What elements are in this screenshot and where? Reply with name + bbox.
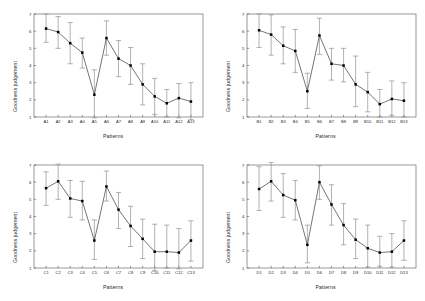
data-point-D6 xyxy=(318,180,321,182)
x-tick-label-A3: A3 xyxy=(68,119,74,124)
plot-area-a: 1234567A1A2A3A4A5A6A7A8A9A10A11A12A13 xyxy=(0,0,213,151)
data-point-D13 xyxy=(402,239,405,242)
y-tick-label-c-7: 7 xyxy=(29,162,32,167)
x-tick-label-C7: C7 xyxy=(116,270,122,275)
chart-panel-c: Goodness judgement 1234567C1C2C3C4C5C6C7… xyxy=(0,151,213,301)
y-tick-label-a-5: 5 xyxy=(29,46,32,51)
x-tick-label-D9: D9 xyxy=(353,270,359,275)
x-axis-title-a: Patterns xyxy=(103,133,123,139)
data-point-D7 xyxy=(330,203,333,206)
x-tick-label-D12: D12 xyxy=(388,270,396,275)
y-tick-label-b-1: 1 xyxy=(242,115,245,120)
x-tick-label-A11: A11 xyxy=(163,119,171,124)
x-tick-label-D1: D1 xyxy=(256,270,262,275)
error-bar-C11 xyxy=(164,225,169,268)
data-point-C8 xyxy=(129,224,132,227)
y-tick-label-d-5: 5 xyxy=(242,196,245,201)
y-tick-label-d-1: 1 xyxy=(242,265,245,270)
y-tick-label-a-4: 4 xyxy=(29,63,32,68)
x-tick-label-A1: A1 xyxy=(44,119,50,124)
x-axis-title-b: Patterns xyxy=(316,133,336,139)
data-point-D3 xyxy=(281,193,284,196)
data-point-A2 xyxy=(57,31,60,34)
data-point-A9 xyxy=(141,83,144,86)
data-point-D2 xyxy=(269,180,272,183)
error-bar-C10 xyxy=(152,224,157,270)
x-tick-label-D6: D6 xyxy=(316,270,322,275)
x-tick-label-C1: C1 xyxy=(43,270,49,275)
data-point-B4 xyxy=(294,50,297,53)
x-tick-label-D8: D8 xyxy=(340,270,346,275)
x-tick-label-D5: D5 xyxy=(304,270,310,275)
y-tick-label-a-6: 6 xyxy=(29,29,32,34)
data-point-D11 xyxy=(378,251,381,254)
x-tick-label-C3: C3 xyxy=(68,270,74,275)
data-point-A10 xyxy=(153,95,156,98)
x-tick-label-C13: C13 xyxy=(187,270,195,275)
data-point-D5 xyxy=(306,243,309,246)
data-point-B9 xyxy=(354,83,357,86)
x-tick-label-A8: A8 xyxy=(128,119,134,124)
y-tick-label-d-6: 6 xyxy=(242,179,245,184)
x-tick-label-B5: B5 xyxy=(304,119,310,124)
data-point-C13 xyxy=(190,239,193,242)
data-point-B13 xyxy=(402,99,405,102)
x-tick-label-C10: C10 xyxy=(151,270,159,275)
x-tick-label-B10: B10 xyxy=(364,119,372,124)
x-tick-label-D4: D4 xyxy=(292,270,298,275)
plot-area-b: 1234567B1B2B3B4B5B6B7B8B9B10B11B12B13 xyxy=(213,0,425,151)
x-tick-label-C2: C2 xyxy=(56,270,62,275)
data-point-C7 xyxy=(117,208,120,211)
data-point-A7 xyxy=(117,57,120,60)
x-tick-label-D13: D13 xyxy=(400,270,408,275)
plot-area-d: 1234567D1D2D3D4D5D6D7D8D9D10D11D12D13 xyxy=(213,151,425,301)
x-tick-label-D11: D11 xyxy=(376,270,384,275)
chart-panel-a: Goodness judgement 1234567A1A2A3A4A5A6A7… xyxy=(0,0,213,151)
x-tick-label-C9: C9 xyxy=(140,270,146,275)
y-tick-label-a-2: 2 xyxy=(29,97,32,102)
chart-panel-d: Goodness judgement 1234567D1D2D3D4D5D6D7… xyxy=(213,151,425,301)
y-tick-label-c-2: 2 xyxy=(29,248,32,253)
x-axis-title-d: Patterns xyxy=(316,284,336,290)
error-bar-A12 xyxy=(176,84,181,118)
data-point-C3 xyxy=(69,197,72,200)
error-bar-D10 xyxy=(365,225,370,267)
data-point-A11 xyxy=(166,102,169,105)
error-bar-C12 xyxy=(176,228,181,268)
y-tick-label-b-4: 4 xyxy=(242,63,245,68)
data-point-C11 xyxy=(166,250,169,253)
y-tick-label-d-7: 7 xyxy=(242,162,245,167)
data-point-B8 xyxy=(342,64,345,67)
figure-panel-grid: Goodness judgement 1234567A1A2A3A4A5A6A7… xyxy=(0,0,425,301)
data-point-B3 xyxy=(281,45,284,48)
y-tick-label-c-3: 3 xyxy=(29,231,32,236)
x-tick-label-C5: C5 xyxy=(92,270,98,275)
y-tick-label-a-7: 7 xyxy=(29,12,32,17)
x-tick-label-A10: A10 xyxy=(151,119,159,124)
data-point-B1 xyxy=(257,29,260,32)
x-tick-label-C11: C11 xyxy=(163,270,171,275)
data-point-A8 xyxy=(129,64,132,67)
data-point-C5 xyxy=(93,239,96,242)
y-tick-label-d-4: 4 xyxy=(242,214,245,219)
x-tick-label-B8: B8 xyxy=(341,119,347,124)
y-tick-label-b-3: 3 xyxy=(242,80,245,85)
x-tick-label-A6: A6 xyxy=(104,119,110,124)
x-tick-label-D3: D3 xyxy=(280,270,286,275)
x-tick-label-C8: C8 xyxy=(128,270,134,275)
y-tick-label-d-2: 2 xyxy=(242,248,245,253)
data-point-B12 xyxy=(390,98,393,101)
x-tick-label-A2: A2 xyxy=(56,119,62,124)
data-point-A4 xyxy=(81,51,84,54)
data-point-B5 xyxy=(306,90,309,93)
data-point-D9 xyxy=(354,238,357,241)
data-point-A1 xyxy=(45,27,48,30)
y-tick-label-b-5: 5 xyxy=(242,46,245,51)
x-tick-label-C6: C6 xyxy=(104,270,110,275)
y-tick-label-b-6: 6 xyxy=(242,29,245,34)
y-tick-label-a-1: 1 xyxy=(29,115,32,120)
x-tick-label-B12: B12 xyxy=(388,119,396,124)
y-tick-label-a-3: 3 xyxy=(29,80,32,85)
x-tick-label-B11: B11 xyxy=(376,119,384,124)
y-tick-label-c-4: 4 xyxy=(29,214,32,219)
